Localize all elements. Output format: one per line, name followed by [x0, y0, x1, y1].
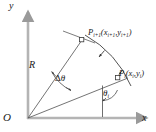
point-current-label: Pi(xi,yi)	[119, 69, 144, 78]
delta-theta-label: Δθ	[55, 74, 65, 83]
point-next-x-subscript: i+1	[107, 32, 115, 38]
theta-i-label: θi	[103, 89, 109, 98]
point-next-close-paren: )	[129, 27, 132, 37]
theta-symbol: θ	[61, 73, 65, 83]
point-current-close-paren: )	[141, 68, 144, 78]
delta-theta-arrow-lower	[66, 88, 71, 91]
diagram-canvas	[0, 0, 156, 132]
trajectory-arrowhead	[99, 51, 105, 58]
point-current-subscript: i	[124, 73, 125, 79]
point-next-y-subscript: i+1	[121, 32, 129, 38]
x-axis-label: x	[142, 113, 146, 123]
point-next-marker	[79, 37, 83, 41]
point-next-label: Pi+1(xi+1,yi+1)	[88, 28, 132, 37]
y-axis-label: y	[9, 1, 13, 11]
theta-i-subscript: i	[107, 93, 109, 99]
point-current-y-subscript: i	[140, 73, 141, 79]
point-current-x-subscript: i	[132, 73, 133, 79]
point-next-subscript: i+1	[93, 32, 101, 38]
figure-diagram: y x O R Δθ θi Pi+1(xi+1,yi+1) Pi(xi,yi)	[0, 0, 156, 132]
origin-label: O	[3, 112, 11, 123]
radius-label: R	[29, 60, 35, 70]
radius-rays	[28, 40, 128, 118]
ray-to-point-current	[28, 78, 128, 118]
